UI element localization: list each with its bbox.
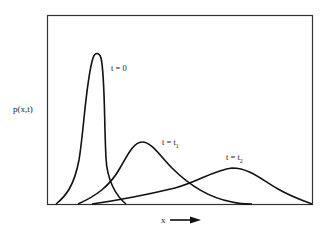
label-t2: t = t2 [226, 152, 243, 164]
label-t2-sub: 2 [240, 158, 243, 164]
label-t1: t = t1 [162, 137, 179, 149]
label-t1-sub: 1 [176, 143, 179, 149]
label-t1-main: t = t [162, 137, 176, 147]
arrow-right-icon [190, 217, 201, 224]
diffusion-plot: p(x,t) t = 0 t = t1 t = t2 x [0, 0, 327, 233]
curve-t2 [92, 168, 312, 204]
x-axis-label: x [161, 215, 166, 225]
label-t0: t = 0 [111, 63, 127, 73]
y-axis-label: p(x,t) [13, 104, 33, 114]
curve-t0 [56, 54, 126, 205]
label-t2-main: t = t [226, 152, 240, 162]
